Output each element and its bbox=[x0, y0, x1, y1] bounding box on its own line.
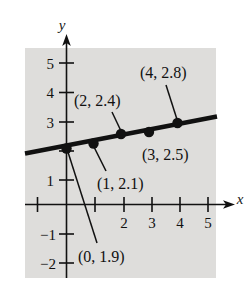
point-label-2-2-4: (2, 2.4) bbox=[74, 92, 121, 110]
y-axis-label: y bbox=[57, 17, 66, 33]
point-label-0-1-9: (0, 1.9) bbox=[78, 248, 125, 266]
point-label-3-2-5: (3, 2.5) bbox=[142, 146, 189, 164]
scatter-plot-figure: y x 5 4 3 1 −1 −2 2 3 4 5 (4, 2.8) (2, 2… bbox=[0, 0, 252, 282]
data-point-3 bbox=[144, 127, 154, 137]
y-tick-label-4: 4 bbox=[47, 85, 55, 101]
data-point-2 bbox=[116, 129, 126, 139]
x-tick-label-3: 3 bbox=[148, 215, 156, 231]
y-tick-label-minus-1: −1 bbox=[40, 227, 56, 243]
x-tick-label-5: 5 bbox=[204, 215, 212, 231]
point-label-4-2-8: (4, 2.8) bbox=[140, 64, 187, 82]
y-tick-label-3: 3 bbox=[47, 115, 55, 131]
data-point-4 bbox=[172, 118, 182, 128]
y-tick-label-minus-2: −2 bbox=[40, 256, 56, 272]
y-tick-label-5: 5 bbox=[47, 56, 55, 72]
x-tick-label-2: 2 bbox=[120, 215, 128, 231]
y-tick-label-1: 1 bbox=[47, 173, 55, 189]
plot-background bbox=[25, 48, 216, 278]
point-label-1-2-1: (1, 2.1) bbox=[97, 175, 144, 193]
x-axis-label: x bbox=[236, 191, 244, 207]
data-point-0 bbox=[61, 143, 71, 153]
x-tick-label-4: 4 bbox=[176, 215, 184, 231]
data-point-1 bbox=[88, 138, 98, 148]
